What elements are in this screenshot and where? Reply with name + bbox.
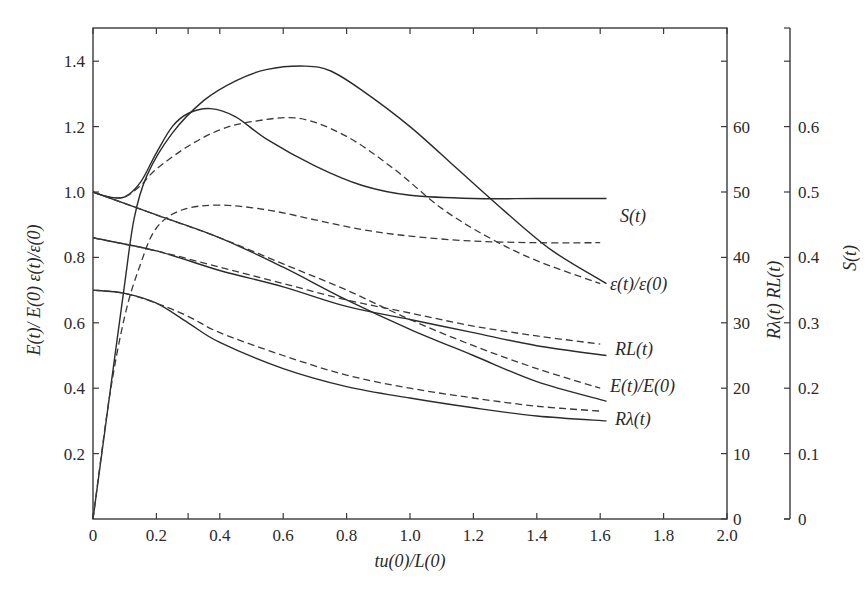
x-tick-label: 0.8 [336, 526, 357, 545]
y-right1-tick-label: 30 [733, 314, 750, 333]
label-rl: RL(t) [614, 339, 653, 360]
x-axis-title: tu(0)/L(0) [375, 551, 446, 572]
y-axis-right2-title: S(t) [840, 245, 861, 271]
y-right2-tick-label: 0.4 [798, 248, 820, 267]
chart-canvas: 00.20.40.60.81.01.21.41.61.82.00.20.40.6… [0, 0, 868, 589]
y-axis-left-title: E(t)/ E(0) ε(t)/ε(0) [24, 224, 45, 356]
curve-e-t-e-0 [93, 192, 607, 401]
y-right1-tick-label: 20 [733, 379, 750, 398]
y-axis-right1-title: Rλ(t) RL(t) [764, 261, 785, 340]
x-tick-label: 1.6 [590, 526, 611, 545]
y-right1-tick-label: 40 [733, 248, 750, 267]
label-epsilon: ε(t)/ε(0) [610, 274, 667, 295]
y-right2-tick-label: 0.6 [798, 118, 819, 137]
curves [93, 66, 607, 519]
label-rlambda: Rλ(t) [614, 409, 651, 430]
x-tick-label: 0.2 [146, 526, 167, 545]
y-right1-tick-label: 10 [733, 445, 750, 464]
y-right1-tick-label: 60 [733, 118, 750, 137]
curve-s-t [93, 109, 607, 199]
y-right2-tick-label: 0.2 [798, 379, 819, 398]
y-right2-tick-label: 0.1 [798, 445, 819, 464]
y-right1-tick-label: 0 [733, 510, 742, 529]
curve-rl-t-model [93, 238, 600, 344]
y-left-tick-label: 0.2 [64, 445, 85, 464]
x-tick-label: 1.4 [526, 526, 548, 545]
curve-rl-t [93, 238, 607, 356]
y-right2-tick-label: 0 [798, 510, 807, 529]
curve-ε-t-ε-0-model [93, 205, 600, 519]
curve-rλ-t-model [93, 290, 600, 411]
curve-s-t-model [93, 118, 600, 284]
x-tick-label: 0.6 [273, 526, 294, 545]
curve-ε-t-ε-0 [93, 66, 607, 519]
x-tick-label: 0 [89, 526, 98, 545]
x-tick-label: 1.8 [653, 526, 674, 545]
y-left-tick-label: 1.2 [64, 118, 85, 137]
y-left-tick-label: 0.8 [64, 248, 85, 267]
y-right2-tick-label: 0.5 [798, 183, 819, 202]
y-left-tick-label: 0.4 [64, 379, 86, 398]
y-left-tick-label: 1.4 [64, 52, 86, 71]
axes: 00.20.40.60.81.01.21.41.61.82.00.20.40.6… [64, 28, 820, 545]
y-right1-tick-label: 50 [733, 183, 750, 202]
label-e: E(t)/E(0) [609, 376, 675, 397]
y-right2-tick-label: 0.3 [798, 314, 819, 333]
y-left-tick-label: 1.0 [64, 183, 85, 202]
curve-e-t-e-0-model [93, 192, 600, 388]
x-tick-label: 1.0 [399, 526, 420, 545]
label-s: S(t) [620, 206, 646, 227]
x-tick-label: 0.4 [209, 526, 231, 545]
curve-rλ-t [93, 290, 607, 421]
x-tick-label: 1.2 [463, 526, 484, 545]
curve-labels: S(t) ε(t)/ε(0) RL(t) E(t)/E(0) Rλ(t) [609, 206, 675, 430]
y-left-tick-label: 0.6 [64, 314, 85, 333]
